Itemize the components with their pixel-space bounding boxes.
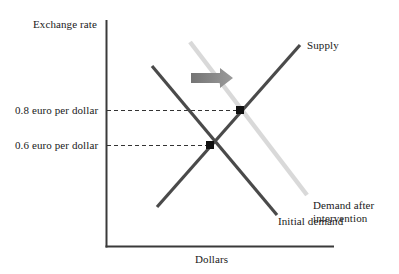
demand-after-intervention-curve	[190, 42, 307, 195]
dashed-leaders-group	[107, 111, 240, 146]
diagram-canvas	[0, 0, 399, 274]
supply-curve-label: Supply	[307, 39, 339, 52]
exchange-rate-diagram: Exchange rate Dollars 0.8 euro per dolla…	[0, 0, 399, 274]
x-axis-label: Dollars	[195, 253, 228, 266]
demand-after-label-line1: Demand after	[313, 199, 374, 212]
new-equilibrium-point	[236, 106, 244, 114]
y-tick-label-low: 0.6 euro per dollar	[15, 139, 98, 152]
y-tick-label-high: 0.8 euro per dollar	[15, 104, 98, 117]
y-axis-label: Exchange rate	[33, 18, 97, 31]
initial-demand-label: Initial demand	[278, 215, 343, 228]
initial-equilibrium-point	[206, 141, 214, 149]
supply-curve	[157, 45, 300, 207]
